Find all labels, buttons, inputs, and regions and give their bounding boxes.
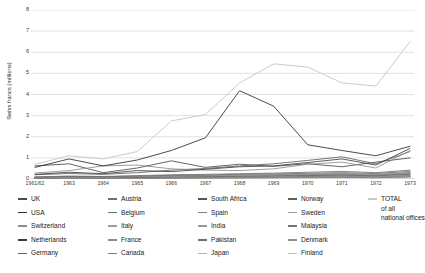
legend-item-uk[interactable]: UK xyxy=(18,194,67,208)
line-chart: Swiss francs (millions) 012345678 1961/6… xyxy=(0,0,423,192)
legend-item-label: Finland xyxy=(301,248,323,258)
legend-item-label: Canada xyxy=(121,248,144,258)
legend-item-label: USA xyxy=(31,208,45,218)
legend-color-swatch xyxy=(18,212,27,214)
x-axis-tick-label: 1971 xyxy=(336,181,348,186)
legend-item-italy[interactable]: Italy xyxy=(108,221,145,235)
x-axis-tick-label: 1968 xyxy=(234,181,246,186)
legend-item-belgium[interactable]: Belgium xyxy=(108,208,145,222)
legend-color-swatch xyxy=(18,225,27,227)
x-axis-tick-label: 1972 xyxy=(370,181,382,186)
x-axis-tick-label: 1963 xyxy=(63,181,75,186)
legend-item-label: Norway xyxy=(301,194,323,204)
legend-item-norway[interactable]: Norway xyxy=(288,194,328,208)
x-axis-tick-label: 1961/62 xyxy=(26,181,45,186)
plot-svg xyxy=(31,10,414,179)
y-axis-tick-label: 4 xyxy=(26,92,29,98)
legend-color-swatch xyxy=(288,212,297,214)
y-axis-title: Swiss francs (millions) xyxy=(2,16,16,166)
legend-color-swatch xyxy=(108,198,117,200)
legend-item-usa[interactable]: USA xyxy=(18,208,67,222)
legend-item-south-africa[interactable]: South Africa xyxy=(198,194,247,208)
x-axis-tick-label: 1964 xyxy=(97,181,109,186)
legend-item-label: Netherlands xyxy=(31,235,67,245)
legend-color-swatch xyxy=(18,239,27,241)
legend-color-swatch xyxy=(108,212,117,214)
legend-item-label: Malaysia xyxy=(301,221,327,231)
legend-color-swatch xyxy=(198,212,207,214)
legend-color-swatch xyxy=(288,239,297,241)
legend-item-france[interactable]: France xyxy=(108,235,145,249)
legend-item-label: Japan xyxy=(211,248,229,258)
legend-item-label: India xyxy=(211,221,225,231)
legend-color-swatch xyxy=(198,239,207,241)
legend-item-malaysia[interactable]: Malaysia xyxy=(288,221,328,235)
plot-area: 012345678 1961/6219631964196519661967196… xyxy=(31,10,414,179)
legend-item-india[interactable]: India xyxy=(198,221,247,235)
y-axis-tick-label: 1 xyxy=(26,155,29,161)
y-axis-tick-label: 2 xyxy=(26,134,29,140)
legend-column: South AfricaSpainIndiaPakistanJapan xyxy=(198,194,247,262)
legend-item-switzerland[interactable]: Switzerland xyxy=(18,221,67,235)
legend-item-germany[interactable]: Germany xyxy=(18,248,67,262)
legend-column: TOTALof allnational offices xyxy=(368,194,425,208)
y-axis-title-text: Swiss francs (millions) xyxy=(6,62,12,120)
x-axis-tick-label: 1967 xyxy=(200,181,212,186)
y-axis-tick-label: 7 xyxy=(26,28,29,34)
y-axis-tick-label: 6 xyxy=(26,49,29,55)
legend-item-label: UK xyxy=(31,194,40,204)
x-axis-tick-label: 1969 xyxy=(268,181,280,186)
x-axis-tick-label: 1965 xyxy=(131,181,143,186)
chart-legend: UKUSASwitzerlandNetherlandsGermanyAustri… xyxy=(18,194,418,270)
x-axis-tick-label: 1966 xyxy=(166,181,178,186)
legend-item-spain[interactable]: Spain xyxy=(198,208,247,222)
legend-item-canada[interactable]: Canada xyxy=(108,248,145,262)
legend-color-swatch xyxy=(288,225,297,227)
legend-item-japan[interactable]: Japan xyxy=(198,248,247,262)
x-axis-tick-label: 1973 xyxy=(404,181,416,186)
legend-item-label: Belgium xyxy=(121,208,145,218)
legend-color-swatch xyxy=(368,198,377,200)
legend-item-total[interactable]: TOTALof allnational offices xyxy=(368,194,425,208)
legend-color-swatch xyxy=(18,198,27,200)
legend-column: AustriaBelgiumItalyFranceCanada xyxy=(108,194,145,262)
legend-item-label: Pakistan xyxy=(211,235,236,245)
legend-color-swatch xyxy=(108,253,117,255)
legend-color-swatch xyxy=(198,225,207,227)
legend-item-label: TOTALof allnational offices xyxy=(381,194,425,222)
legend-color-swatch xyxy=(198,253,207,255)
legend-item-sweden[interactable]: Sweden xyxy=(288,208,328,222)
legend-color-swatch xyxy=(288,198,297,200)
legend-item-label: Italy xyxy=(121,221,133,231)
legend-color-swatch xyxy=(198,198,207,200)
legend-item-pakistan[interactable]: Pakistan xyxy=(198,235,247,249)
legend-color-swatch xyxy=(108,239,117,241)
legend-item-label: Switzerland xyxy=(31,221,65,231)
legend-item-label: Denmark xyxy=(301,235,328,245)
legend-item-label: South Africa xyxy=(211,194,247,204)
legend-color-swatch xyxy=(18,253,27,255)
legend-item-label: Sweden xyxy=(301,208,325,218)
legend-item-sublabel: of all xyxy=(381,204,425,213)
legend-column: NorwaySwedenMalaysiaDenmarkFinland xyxy=(288,194,328,262)
legend-item-austria[interactable]: Austria xyxy=(108,194,145,208)
legend-item-label: France xyxy=(121,235,142,245)
legend-item-netherlands[interactable]: Netherlands xyxy=(18,235,67,249)
legend-item-denmark[interactable]: Denmark xyxy=(288,235,328,249)
legend-color-swatch xyxy=(108,225,117,227)
legend-color-swatch xyxy=(288,253,297,255)
legend-item-sublabel: national offices xyxy=(381,213,425,222)
series-line xyxy=(35,42,410,165)
legend-item-finland[interactable]: Finland xyxy=(288,248,328,262)
y-axis-tick-label: 8 xyxy=(26,7,29,13)
legend-item-label: Germany xyxy=(31,248,58,258)
y-axis-tick-label: 3 xyxy=(26,113,29,119)
legend-item-label: Austria xyxy=(121,194,142,204)
legend-item-label: Spain xyxy=(211,208,228,218)
legend-column: UKUSASwitzerlandNetherlandsGermany xyxy=(18,194,67,262)
series-line xyxy=(35,91,410,168)
x-axis-tick-label: 1970 xyxy=(302,181,314,186)
y-axis-tick-label: 5 xyxy=(26,71,29,77)
